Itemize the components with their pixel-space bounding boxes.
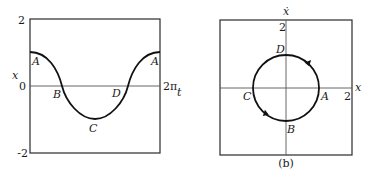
panel-a-ytick-zero: 0 bbox=[19, 80, 26, 93]
point-label-a-start: A bbox=[31, 55, 40, 68]
figure: 2 0 -2 x 2π t A B C D A ẋ 2 x 2 D C A B … bbox=[0, 0, 371, 174]
panel-a-x-axis-label: t bbox=[177, 86, 182, 99]
panel-a-cosine-curve bbox=[30, 52, 160, 119]
panel-b-x-axis-label: x bbox=[355, 81, 362, 94]
panel-b-y-axis-label: ẋ bbox=[283, 5, 290, 18]
point-label-d: D bbox=[111, 87, 121, 100]
point-label-a-end: A bbox=[150, 55, 159, 68]
point-label-b: B bbox=[52, 88, 61, 101]
panel-a: 2 0 -2 x 2π t A B C D A bbox=[12, 14, 182, 160]
panel-a-ytick-top: 2 bbox=[18, 14, 25, 27]
panel-a-xtick-end: 2π bbox=[163, 80, 177, 93]
point-label-b: B bbox=[286, 123, 295, 136]
panel-a-y-axis-label: x bbox=[12, 69, 19, 82]
panel-b: ẋ 2 x 2 D C A B (b) bbox=[220, 5, 362, 170]
point-label-c: C bbox=[89, 122, 98, 135]
panel-b-xtick-right: 2 bbox=[344, 90, 351, 103]
panel-b-ytick-top: 2 bbox=[279, 21, 286, 34]
point-label-a: A bbox=[320, 90, 329, 103]
panel-a-ytick-bottom: -2 bbox=[17, 147, 28, 160]
point-label-d: D bbox=[275, 43, 285, 56]
panel-b-caption: (b) bbox=[278, 157, 294, 170]
point-label-c: C bbox=[243, 90, 252, 103]
